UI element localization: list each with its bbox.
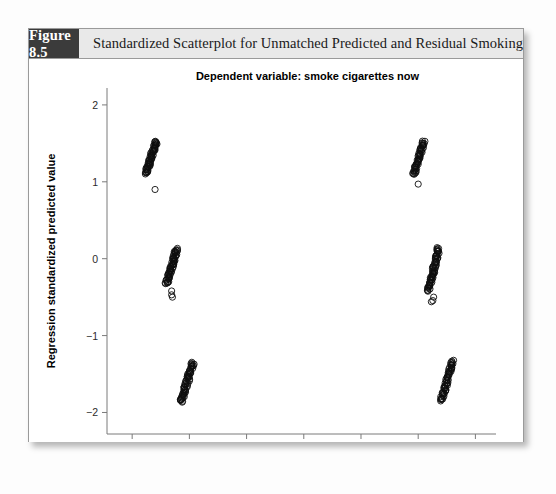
y-tick-label: 0	[92, 253, 98, 265]
figure-header: Figure 8.5 Standardized Scatterplot for …	[29, 29, 523, 59]
screenshot-stage: Figure 8.5 Standardized Scatterplot for …	[0, 0, 556, 494]
point-cluster-lower-left	[177, 359, 197, 405]
x-tick-label: −0.5	[293, 441, 314, 442]
point-cluster-upper-left	[142, 138, 160, 192]
outlier-point	[415, 181, 421, 187]
point-cluster-upper-right	[410, 138, 428, 187]
outlier-point	[152, 186, 158, 192]
x-tick-label: −1.0	[236, 441, 257, 442]
figure-box: Figure 8.5 Standardized Scatterplot for …	[28, 28, 524, 442]
scatterplot-area: −2.0−1.5−1.0−0.50.00.51.0−2−1012Dependen…	[29, 60, 523, 442]
y-tick-label: −2	[86, 406, 98, 418]
y-tick-label: −1	[86, 330, 98, 342]
point-cluster-middle-left	[162, 245, 180, 300]
figure-number-tag: Figure 8.5	[29, 29, 79, 58]
x-tick-label: 1.0	[468, 441, 483, 442]
x-tick-label: −2.0	[122, 441, 143, 442]
x-tick-label: 0.5	[411, 441, 426, 442]
x-tick-label: 0.0	[354, 441, 369, 442]
scatterplot-svg: −2.0−1.5−1.0−0.50.00.51.0−2−1012Dependen…	[29, 60, 523, 442]
y-tick-label: 1	[92, 176, 98, 188]
point-cluster-lower-right	[438, 357, 457, 404]
plot-title: Dependent variable: smoke cigarettes now	[196, 70, 420, 82]
y-axis-title: Regression standardized predicted value	[45, 154, 57, 369]
figure-caption: Standardized Scatterplot for Unmatched P…	[79, 29, 523, 58]
y-tick-label: 2	[92, 99, 98, 111]
point-cluster-middle-right	[424, 245, 442, 305]
x-tick-label: −1.5	[179, 441, 200, 442]
